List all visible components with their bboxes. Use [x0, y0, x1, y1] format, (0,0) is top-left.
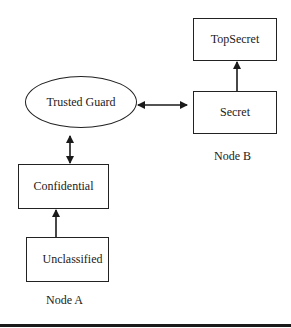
- node-secret-label: Secret: [220, 105, 250, 120]
- group-label-node-a: Node A: [46, 293, 83, 308]
- group-label-node-b: Node B: [214, 149, 251, 164]
- node-topsecret-label: TopSecret: [211, 32, 259, 47]
- node-confidential-label: Confidential: [34, 179, 94, 194]
- node-secret: Secret: [193, 91, 277, 134]
- node-topsecret: TopSecret: [193, 18, 277, 61]
- bottom-rule: [0, 324, 291, 327]
- node-confidential: Confidential: [18, 164, 109, 209]
- node-trusted-guard: Trusted Guard: [25, 76, 137, 128]
- node-unclassified-label: Unclassified: [43, 252, 103, 267]
- node-unclassified: Unclassified: [26, 237, 109, 282]
- node-trusted-guard-label: Trusted Guard: [46, 95, 115, 110]
